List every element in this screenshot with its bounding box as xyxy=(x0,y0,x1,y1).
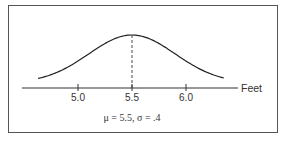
x-axis-label: Feet xyxy=(241,82,262,94)
normal-curve xyxy=(38,35,224,78)
normal-curve-chart: 5.0 5.5 6.0 Feet μ = 5.5, σ = .4 xyxy=(0,0,290,141)
tick-label-5-5: 5.5 xyxy=(125,92,139,103)
tick-label-5-0: 5.0 xyxy=(71,92,85,103)
tick-label-6-0: 6.0 xyxy=(179,92,193,103)
distribution-caption: μ = 5.5, σ = .4 xyxy=(103,112,160,123)
